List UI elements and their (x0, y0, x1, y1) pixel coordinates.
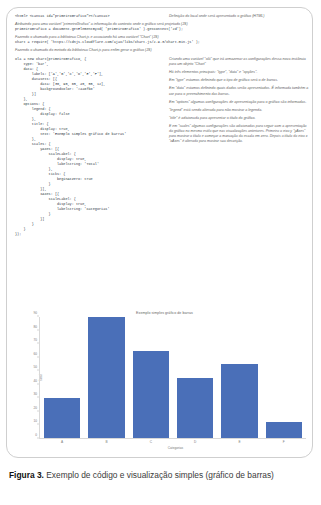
bar-cell (266, 317, 302, 438)
chart-title: Exemplo simples gráfico de barras (17, 311, 312, 315)
chart-plot-area: Total 0102030405060708090 (39, 317, 306, 439)
x-axis-tick-label: A (44, 440, 80, 444)
y-axis-tick-mark (37, 438, 39, 439)
y-axis-tick-mark (37, 343, 39, 344)
bar (177, 378, 213, 439)
y-axis-tick-mark (37, 329, 39, 330)
figure-card: <html> <canvas id="primeiroGrafico"></ca… (6, 7, 313, 458)
figure-caption: Figura 3. Exemplo de código e visualizaç… (9, 470, 314, 481)
code-block: ola = new Chart(primeiroGrafico, { type:… (15, 57, 165, 237)
code-annotation-area: <html> <canvas id="primeiroGrafico"></ca… (15, 14, 306, 237)
x-axis-title: Categorias (39, 446, 312, 450)
note-html-canvas: Definição do local onde será apresentado… (169, 14, 309, 19)
x-axis-line (39, 438, 306, 439)
y-axis-tick-label: 70 (33, 338, 39, 342)
y-axis-tick-mark (37, 383, 39, 384)
bar (88, 317, 124, 438)
caption-text: Exemplo de código e visualização simples… (44, 470, 274, 480)
note-new-chart: Criando uma variável "olá" que irá armaz… (169, 57, 309, 67)
y-axis-tick-label: 40 (33, 379, 39, 383)
bar-cell (44, 317, 80, 438)
x-axis-tick-label: D (177, 440, 213, 444)
row-main-code: ola = new Chart(primeiroGrafico, { type:… (15, 57, 306, 237)
y-axis-tick-label: 10 (33, 419, 39, 423)
y-axis-tick-label: 50 (33, 365, 39, 369)
code-html-canvas: <html> <canvas id="primeiroGrafico"></ca… (15, 14, 165, 19)
code-line: }); (15, 232, 165, 237)
bar-cell (177, 317, 213, 438)
figure-page: <html> <canvas id="primeiroGrafico"></ca… (0, 0, 321, 505)
y-axis-tick-mark (37, 370, 39, 371)
y-axis-tick-mark (37, 356, 39, 357)
notes-column: Criando uma variável "olá" que irá armaz… (169, 57, 309, 145)
x-axis-labels: ABCDEF (40, 440, 306, 444)
bar (44, 398, 80, 438)
y-axis-tick-label: 20 (33, 406, 39, 410)
x-axis-tick-label: E (221, 440, 257, 444)
x-axis-tick-label: B (88, 440, 124, 444)
bar (266, 422, 302, 438)
y-axis-tick-label: 0 (35, 433, 39, 437)
y-axis-tick-label: 80 (33, 325, 39, 329)
note-options: Em "options" algumas configurações de ap… (169, 100, 309, 105)
y-axis-tick-label: 60 (33, 352, 39, 356)
y-axis-tick-mark (37, 316, 39, 317)
bar-cell (88, 317, 124, 438)
y-axis-tick-label: 30 (33, 392, 39, 396)
y-axis-tick-mark (37, 410, 39, 411)
y-axis-tick-label: 90 (33, 311, 39, 315)
caption-label: Figura 3. (9, 470, 44, 480)
x-axis-tick-label: F (266, 440, 302, 444)
note-scales: E em "scales" algumas configurações são … (169, 124, 309, 144)
row-html-canvas: <html> <canvas id="primeiroGrafico"></ca… (15, 14, 306, 19)
y-axis-tick-mark (37, 397, 39, 398)
bar (133, 351, 169, 438)
bar (221, 364, 257, 438)
bar-cell (133, 317, 169, 438)
bar-series (40, 317, 306, 438)
note-data: Em "data" estamos definindo quais dados … (169, 86, 309, 96)
y-axis-tick-mark (37, 424, 39, 425)
bar-chart: Exemplo simples gráfico de barras Total … (17, 311, 312, 458)
x-axis-tick-label: C (133, 440, 169, 444)
bar-cell (221, 317, 257, 438)
